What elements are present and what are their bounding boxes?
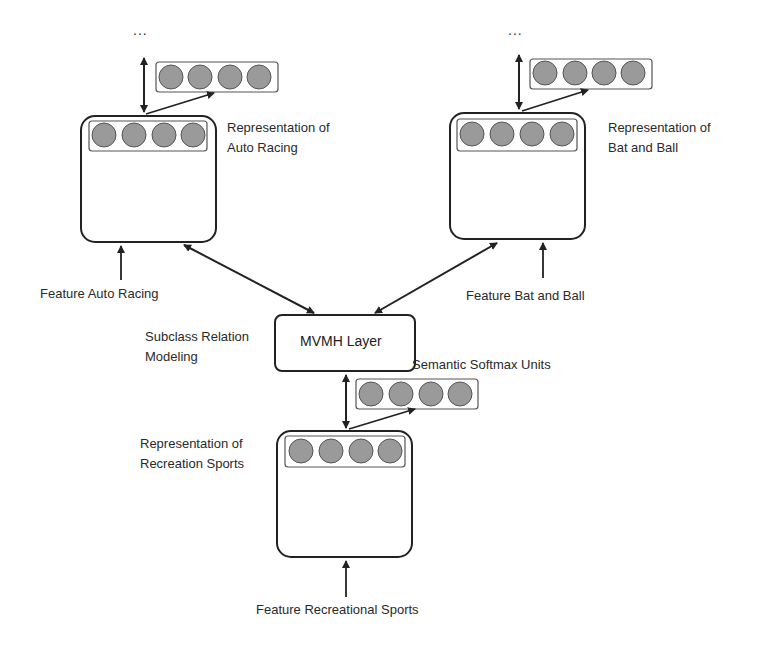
auto-racing-softmax-units <box>156 62 278 92</box>
recreation-sports-feature-label: Feature Recreational Sports <box>256 601 419 618</box>
recreation-sports-representation-box <box>277 431 412 557</box>
bat-and-ball-feature-label: Feature Bat and Ball <box>466 287 585 304</box>
auto-racing-softmax-arrow <box>146 93 214 114</box>
bat-and-ball-label-line1: Representation of <box>608 119 711 136</box>
recreation-sports-softmax-units <box>356 379 478 409</box>
auto-racing-representation-box <box>81 116 216 242</box>
recreation-softmax-arrow <box>349 409 415 429</box>
mvmh-layer-label: MVMH Layer <box>300 333 382 349</box>
auto-racing-ellipsis: ... <box>133 22 148 38</box>
bat-and-ball-representation-box <box>450 113 585 239</box>
subclass-relation-label-line2: Modeling <box>145 348 198 365</box>
bat-and-ball-softmax-arrow <box>522 90 588 111</box>
diagram-canvas <box>0 0 772 650</box>
semantic-softmax-label: Semantic Softmax Units <box>412 356 551 373</box>
recreation-sports-label-line1: Representation of <box>140 435 243 452</box>
bat-and-ball-label-line2: Bat and Ball <box>608 139 678 156</box>
subclass-relation-label-line1: Subclass Relation <box>145 328 249 345</box>
auto-racing-label-line2: Auto Racing <box>227 139 298 156</box>
auto-racing-feature-label: Feature Auto Racing <box>40 285 159 302</box>
bat-and-ball-softmax-units <box>530 59 652 89</box>
auto-racing-label-line1: Representation of <box>227 119 330 136</box>
bat-and-ball-ellipsis: ... <box>508 22 523 38</box>
recreation-sports-label-line2: Recreation Sports <box>140 455 244 472</box>
auto-racing-mvmh-arrow <box>184 245 314 313</box>
